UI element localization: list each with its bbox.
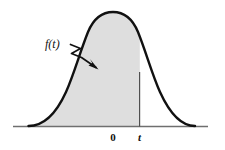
figure-container: f(t) 0 t: [0, 0, 225, 150]
density-curve-figure: f(t) 0 t: [0, 0, 225, 150]
axis-label-t: t: [138, 131, 142, 143]
shaded-area-under-curve: [29, 12, 140, 126]
function-label: f(t): [45, 37, 60, 51]
axis-label-zero: 0: [110, 131, 116, 143]
